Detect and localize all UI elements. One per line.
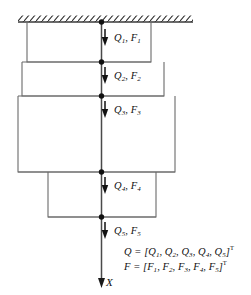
force-label-2: Q2, F2 — [114, 71, 141, 82]
force-label-4: Q4, F4 — [114, 181, 141, 192]
force-label-1: Q1, F1 — [114, 33, 141, 44]
force-label-5: Q5, F5 — [114, 226, 141, 237]
node-dot-4 — [99, 169, 104, 174]
node-dot-1 — [99, 19, 104, 24]
stepped-bar-outline — [18, 22, 175, 217]
force-arrow-4 — [102, 177, 108, 194]
force-arrow-5 — [102, 222, 108, 239]
bar-segment-2 — [22, 62, 164, 96]
node-dot-5 — [99, 214, 104, 219]
force-arrow-3 — [102, 101, 108, 118]
node-dot-3 — [99, 93, 104, 98]
force-arrow-2 — [102, 67, 108, 84]
force-label-3: Q3, F3 — [114, 105, 141, 116]
equation-q-vector: Q = [Q1, Q2, Q3, Q4, Q5]T — [124, 247, 234, 258]
hatch-fill — [18, 16, 193, 23]
axis-label-x: X — [106, 277, 113, 288]
bar-segment-3 — [18, 96, 175, 172]
fixed-support-hatching — [18, 16, 193, 23]
axis-arrowhead — [98, 278, 105, 288]
equation-f-vector: F = [F1, F2, F3, F4, F5]T — [124, 262, 227, 273]
stepped-bar-figure: Q1, F1 Q2, F2 Q3, F3 Q4, F4 Q5, F5 Q = [… — [0, 0, 251, 295]
node-dot-2 — [99, 59, 104, 64]
force-arrow-1 — [102, 29, 108, 46]
